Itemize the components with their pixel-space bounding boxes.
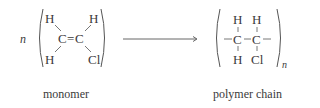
- atom-cl-bottom-right: Cl: [88, 53, 100, 66]
- monomer-left-paren: [40, 9, 44, 67]
- monomer-label: monomer: [43, 88, 89, 100]
- atom-c-1: C: [233, 33, 242, 46]
- monomer-right-paren: [101, 9, 105, 67]
- atom-c-left: C: [58, 32, 67, 45]
- bond-h-c-bottom-left: [55, 46, 61, 52]
- atom-h-top-left: H: [45, 12, 54, 25]
- atom-h-bottom-1: H: [233, 53, 242, 66]
- atom-h-top-right: H: [89, 12, 98, 25]
- atom-c-right: C: [75, 32, 84, 45]
- atom-h-top-1: H: [233, 13, 242, 26]
- atom-h-top-2: H: [252, 13, 261, 26]
- polymer-label: polymer chain: [213, 88, 282, 100]
- monomer-coefficient: n: [20, 33, 26, 45]
- atom-c-2: C: [252, 33, 261, 46]
- atom-h-bottom-left: H: [45, 53, 54, 66]
- double-bond: =: [67, 32, 74, 45]
- polymer-right-paren: [277, 9, 281, 67]
- polymer-left-paren: [217, 9, 221, 67]
- atom-cl-bottom-2: Cl: [251, 53, 263, 66]
- polymer-subscript-n: n: [282, 60, 287, 70]
